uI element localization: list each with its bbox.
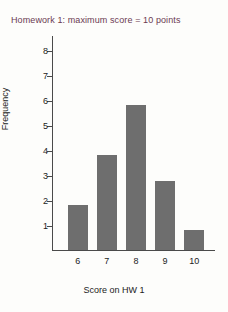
- x-tick-label: 9: [152, 256, 178, 266]
- x-tick-label: 10: [181, 256, 207, 266]
- bar: [68, 205, 88, 250]
- y-axis-title: Frequency: [0, 88, 10, 131]
- y-tick-label: 2: [43, 197, 48, 206]
- y-tick-label: 4: [43, 147, 48, 156]
- bar-slot: [126, 35, 146, 250]
- histogram-figure: Homework 1: maximum score = 10 points 87…: [0, 0, 228, 312]
- bar-slot: [97, 35, 117, 250]
- x-tick-label: 8: [123, 256, 149, 266]
- x-tick-label: 7: [94, 256, 120, 266]
- bar: [97, 155, 117, 250]
- bar: [155, 181, 175, 250]
- y-tick-label: 3: [43, 172, 48, 181]
- bar-slot: [155, 35, 175, 250]
- y-tick-label: 7: [43, 72, 48, 81]
- bar-slot: [68, 35, 88, 250]
- x-axis-line: [52, 250, 215, 251]
- y-tick-label: 8: [43, 47, 48, 56]
- y-tick-label: 5: [43, 122, 48, 131]
- bars-layer: [53, 36, 215, 250]
- chart-title: Homework 1: maximum score = 10 points: [11, 15, 225, 25]
- bar: [184, 230, 204, 250]
- x-axis-title: Score on HW 1: [0, 285, 228, 295]
- plot-area: 87654321: [52, 36, 215, 251]
- bar-slot: [184, 35, 204, 250]
- y-tick-label: 6: [43, 97, 48, 106]
- y-tick-label: 1: [43, 222, 48, 231]
- x-tick-label: 6: [65, 256, 91, 266]
- bar: [126, 105, 146, 250]
